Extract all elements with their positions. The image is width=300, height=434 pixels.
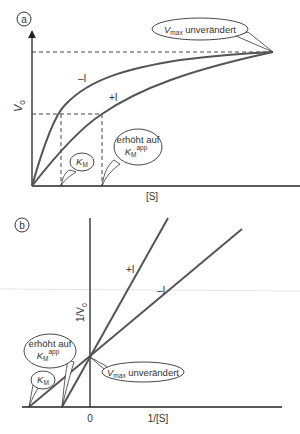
panel-b-label: b bbox=[19, 220, 25, 231]
x-axis-label: [S] bbox=[146, 191, 158, 202]
line-minus-label: –I bbox=[157, 285, 165, 296]
curve-plus-inhibitor bbox=[32, 52, 273, 186]
curve-minus-inhibitor bbox=[32, 52, 273, 186]
y-axis-label-b: 1/V0 bbox=[75, 303, 88, 322]
kmapp-callout-tail-b bbox=[62, 360, 74, 407]
y-axis-label: V0 bbox=[12, 100, 27, 112]
divider bbox=[0, 289, 300, 291]
curve-minus-label: –I bbox=[78, 73, 86, 84]
panel-a-label: a bbox=[21, 14, 27, 25]
x-axis-label-b: 1/[S] bbox=[148, 413, 169, 424]
panel-a: a –I +I V0 [S] Vmax unverändert KM erhöh… bbox=[12, 12, 300, 202]
enzyme-kinetics-diagram: a –I +I V0 [S] Vmax unverändert KM erhöh… bbox=[0, 0, 300, 434]
panel-b: b +I –I 1/V0 0 1/[S] Vmax unverändert er… bbox=[0, 218, 300, 424]
line-plus-label: +I bbox=[126, 264, 135, 275]
curve-plus-label: +I bbox=[109, 92, 118, 103]
kmapp-callout-tail bbox=[102, 160, 120, 186]
km-callout-tail bbox=[61, 170, 76, 186]
origin-label: 0 bbox=[87, 413, 93, 424]
